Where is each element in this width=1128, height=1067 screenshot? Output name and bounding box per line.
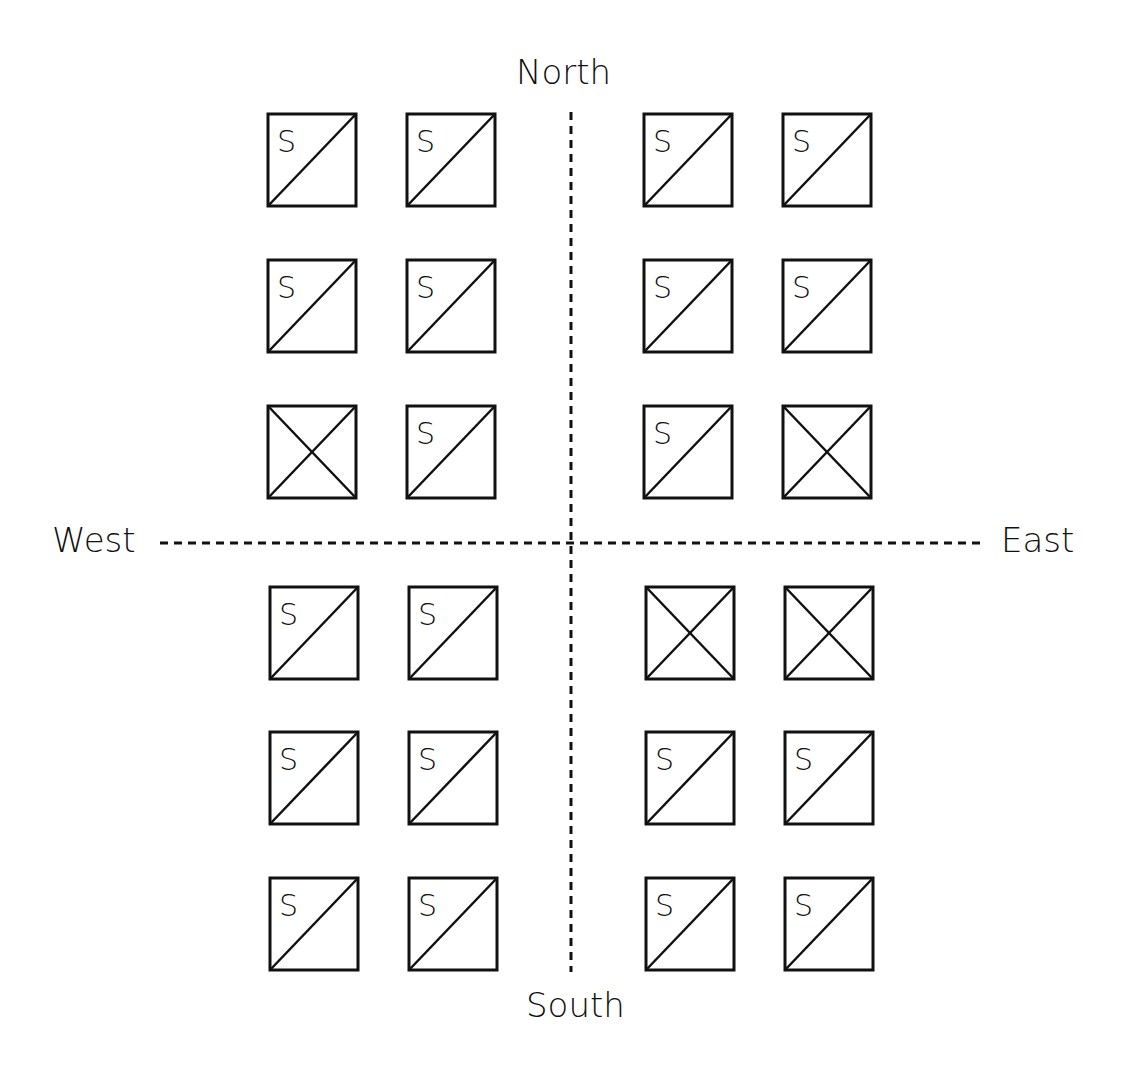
plot-cell-s: S: [646, 878, 734, 970]
svg-text:S: S: [792, 270, 811, 305]
svg-text:S: S: [794, 742, 813, 777]
svg-text:S: S: [416, 270, 435, 305]
plot-cell-s: S: [644, 114, 732, 206]
svg-text:S: S: [418, 742, 437, 777]
svg-text:S: S: [416, 416, 435, 451]
plot-cell-s: S: [783, 114, 871, 206]
plot-cell-s: S: [270, 587, 358, 679]
svg-text:S: S: [794, 888, 813, 923]
plot-cell-s: S: [268, 260, 356, 352]
svg-text:S: S: [277, 270, 296, 305]
plot-cell-s: S: [409, 732, 497, 824]
plot-cell-x: [783, 406, 871, 498]
plot-cell-s: S: [785, 732, 873, 824]
plot-cell-x: [785, 587, 873, 679]
plot-cell-s: S: [409, 878, 497, 970]
svg-text:S: S: [653, 124, 672, 159]
plot-cell-s: S: [268, 114, 356, 206]
svg-text:S: S: [279, 888, 298, 923]
plot-cell-s: S: [407, 260, 495, 352]
svg-text:S: S: [418, 888, 437, 923]
plot-cell-s: S: [646, 732, 734, 824]
plot-cell-x: [268, 406, 356, 498]
svg-text:S: S: [653, 416, 672, 451]
plot-cell-s: S: [409, 587, 497, 679]
svg-text:S: S: [279, 742, 298, 777]
plot-cell-s: S: [407, 114, 495, 206]
svg-text:S: S: [653, 270, 672, 305]
svg-text:S: S: [655, 888, 674, 923]
svg-text:S: S: [655, 742, 674, 777]
plot-cell-s: S: [644, 406, 732, 498]
svg-text:S: S: [418, 597, 437, 632]
svg-text:S: S: [279, 597, 298, 632]
plot-cell-s: S: [270, 878, 358, 970]
svg-text:S: S: [792, 124, 811, 159]
plot-cell-s: S: [785, 878, 873, 970]
plot-cell-x: [646, 587, 734, 679]
plot-diagram: SSSSSSSSSSSSSSSSSSSS: [0, 0, 1128, 1067]
svg-text:S: S: [277, 124, 296, 159]
plot-cell-s: S: [270, 732, 358, 824]
plot-cell-s: S: [407, 406, 495, 498]
plot-cell-s: S: [783, 260, 871, 352]
plot-cell-s: S: [644, 260, 732, 352]
svg-text:S: S: [416, 124, 435, 159]
